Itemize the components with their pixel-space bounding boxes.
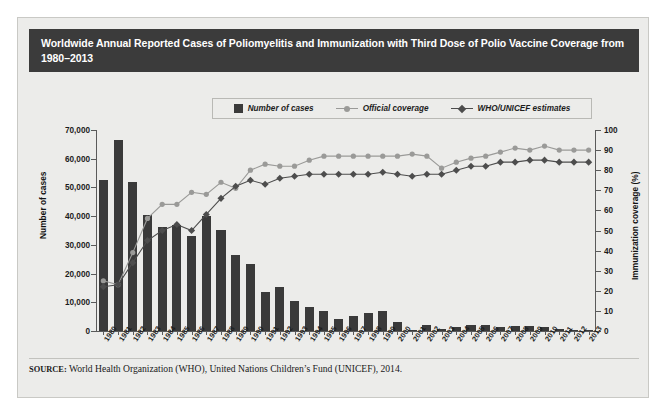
data-point-marker — [101, 278, 106, 283]
data-point-marker — [115, 281, 122, 288]
data-point-marker — [350, 171, 357, 178]
data-point-marker — [291, 173, 298, 180]
data-point-marker — [306, 171, 313, 178]
y-tick-left — [91, 331, 96, 332]
data-point-marker — [159, 227, 166, 234]
data-point-marker — [527, 148, 532, 153]
y-tick-right — [596, 190, 601, 191]
y-tick-right — [596, 271, 601, 272]
figure-panel: Worldwide Annual Reported Cases of Polio… — [17, 17, 649, 398]
y-tick-label-right: 50 — [604, 226, 613, 235]
y-tick-label-right: 90 — [604, 146, 613, 155]
y-tick-right — [596, 231, 601, 232]
data-point-marker — [144, 237, 151, 244]
data-point-marker — [395, 154, 400, 159]
data-point-marker — [320, 171, 327, 178]
y-tick-label-left: 20,000 — [65, 269, 90, 278]
data-point-marker — [439, 166, 444, 171]
data-point-marker — [365, 154, 370, 159]
data-point-marker — [513, 145, 518, 150]
source-label: SOURCE: — [29, 365, 67, 374]
data-point-marker — [248, 168, 253, 173]
line-diamond — [100, 157, 592, 291]
data-point-marker — [130, 250, 135, 255]
data-point-marker — [262, 181, 269, 188]
data-point-marker — [571, 148, 576, 153]
data-point-marker — [438, 171, 445, 178]
line-circle — [101, 143, 591, 287]
data-point-marker — [129, 259, 136, 266]
y-tick-right — [596, 210, 601, 211]
data-point-marker — [410, 152, 415, 157]
data-point-marker — [467, 163, 474, 170]
y-tick-right — [596, 170, 601, 171]
y-tick-right — [596, 150, 601, 151]
data-point-marker — [423, 171, 430, 178]
y-tick-label-right: 70 — [604, 186, 613, 195]
data-point-marker — [380, 154, 385, 159]
source-note: SOURCE: World Health Organization (WHO),… — [29, 363, 629, 374]
y-axis-right-title: Immunization coverage (%) — [630, 172, 640, 280]
data-point-marker — [586, 148, 591, 153]
source-text: World Health Organization (WHO), United … — [67, 363, 402, 374]
y-axis-left-title: Number of cases — [38, 172, 48, 240]
data-point-marker — [218, 180, 223, 185]
line-series — [96, 130, 596, 331]
y-tick-label-right: 80 — [604, 166, 613, 175]
data-point-marker — [409, 173, 416, 180]
data-point-marker — [335, 171, 342, 178]
y-tick-label-left: 30,000 — [65, 240, 90, 249]
data-point-marker — [482, 163, 489, 170]
data-point-marker — [556, 159, 563, 166]
y-tick-label-right: 100 — [604, 126, 618, 135]
data-point-marker — [351, 154, 356, 159]
y-tick-label-left: 40,000 — [65, 212, 90, 221]
data-point-marker — [160, 202, 165, 207]
data-point-marker — [336, 154, 341, 159]
data-point-marker — [292, 164, 297, 169]
y-tick-label-right: 0 — [604, 327, 609, 336]
data-point-marker — [100, 283, 107, 290]
data-point-marker — [498, 150, 503, 155]
data-point-marker — [263, 162, 268, 167]
data-point-marker — [276, 175, 283, 182]
data-point-marker — [512, 159, 519, 166]
data-point-marker — [541, 157, 548, 164]
data-point-marker — [454, 160, 459, 165]
data-point-marker — [424, 154, 429, 159]
y-tick-label-right: 40 — [604, 246, 613, 255]
data-point-marker — [307, 158, 312, 163]
divider — [29, 358, 639, 359]
y-tick-label-left: 70,000 — [65, 126, 90, 135]
data-point-marker — [174, 202, 179, 207]
data-point-marker — [189, 190, 194, 195]
data-point-marker — [557, 148, 562, 153]
y-tick-label-right: 30 — [604, 266, 613, 275]
data-point-marker — [379, 169, 386, 176]
data-point-marker — [173, 221, 180, 228]
data-point-marker — [468, 156, 473, 161]
data-point-marker — [204, 192, 209, 197]
y-tick-label-right: 10 — [604, 306, 613, 315]
data-point-marker — [321, 154, 326, 159]
y-tick-right — [596, 291, 601, 292]
data-point-marker — [526, 157, 533, 164]
y-tick-label-right: 60 — [604, 206, 613, 215]
y-tick-label-left: 0 — [85, 327, 90, 336]
data-point-marker — [585, 159, 592, 166]
data-point-marker — [570, 159, 577, 166]
y-tick-label-right: 20 — [604, 286, 613, 295]
y-tick-right — [596, 251, 601, 252]
data-point-marker — [145, 216, 150, 221]
data-point-marker — [483, 154, 488, 159]
data-point-marker — [365, 171, 372, 178]
data-point-marker — [394, 171, 401, 178]
data-point-marker — [277, 164, 282, 169]
plot-inner: 010,00020,00030,00040,00050,00060,00070,… — [96, 130, 596, 331]
y-tick-label-left: 60,000 — [65, 154, 90, 163]
data-point-marker — [247, 177, 254, 184]
y-tick-label-left: 50,000 — [65, 183, 90, 192]
y-tick-right — [596, 311, 601, 312]
chart-plot-area: Number of cases Immunization coverage (%… — [18, 18, 650, 399]
y-tick-right — [596, 130, 601, 131]
